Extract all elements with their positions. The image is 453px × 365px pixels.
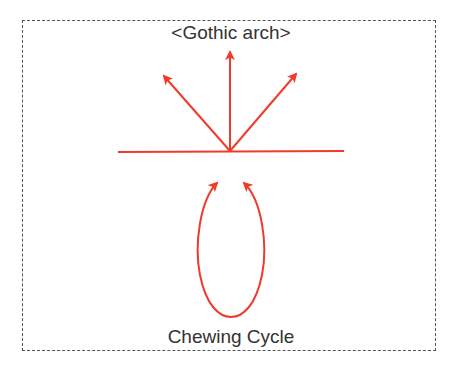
- chewing-cycle-loop: [198, 183, 265, 317]
- gothic-arch-graphic: [118, 52, 344, 152]
- loop-arrow-icon: [198, 183, 265, 317]
- arrow-up-left-icon: [164, 76, 230, 151]
- arrow-up-right-icon: [230, 74, 296, 151]
- diagram-caption: Chewing Cycle: [0, 326, 453, 348]
- diagram-graphic: [0, 0, 453, 365]
